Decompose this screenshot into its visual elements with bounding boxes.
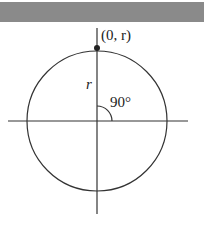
radius-label: r <box>86 76 92 92</box>
point-label: (0, r) <box>101 27 131 44</box>
circle-diagram: (0, r) r 90° <box>0 0 206 226</box>
angle-label: 90° <box>110 94 131 110</box>
point-marker <box>94 45 100 51</box>
